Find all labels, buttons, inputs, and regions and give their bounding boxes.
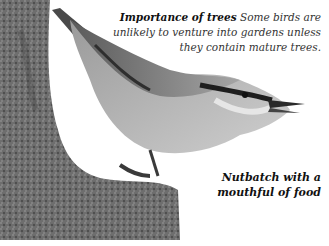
photo-caption: Nutbatch with a mouthful of food <box>191 170 321 200</box>
caption-importance-of-trees: Importance of trees Some birds are unlik… <box>111 10 321 55</box>
book-page: Importance of trees Some birds are unlik… <box>0 0 329 246</box>
caption-heading: Importance of trees <box>120 11 237 23</box>
bird-eye <box>242 92 248 98</box>
